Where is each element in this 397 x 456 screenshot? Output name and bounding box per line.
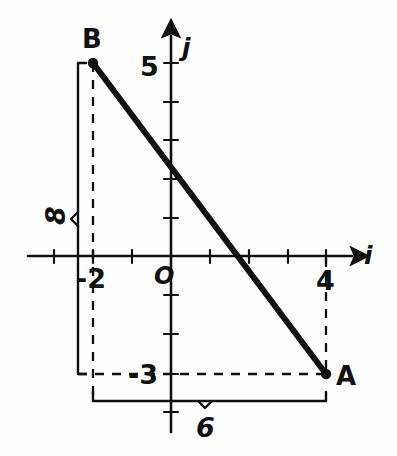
x-tick-label--2: -2 — [76, 263, 106, 294]
x-tick-label-4: 4 — [316, 265, 335, 296]
point-a-marker — [321, 369, 331, 379]
coordinate-graph: i j O 5 -2 4 -3 B A 8 6 — [0, 0, 397, 456]
vertical-measure-label: 8 — [40, 206, 71, 225]
point-b-label: B — [82, 24, 102, 54]
x-axis-label: i — [364, 241, 373, 270]
origin-label: O — [154, 262, 174, 290]
point-b-marker — [88, 58, 98, 68]
y-tick-label-5: 5 — [140, 51, 159, 82]
y-tick-label--3: -3 — [128, 359, 158, 390]
horizontal-measure-label: 6 — [196, 412, 215, 443]
point-a-label: A — [336, 361, 356, 391]
figure-canvas: i j O 5 -2 4 -3 B A 8 6 — [0, 0, 397, 456]
